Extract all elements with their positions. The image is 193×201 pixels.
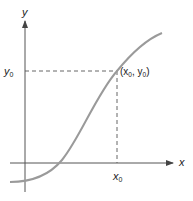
x0-tick-label: x0	[112, 170, 123, 183]
y-axis-label: y	[21, 6, 29, 18]
x-axis-label: x	[178, 156, 185, 168]
point-label: (x0, y0)	[120, 66, 150, 78]
y0-tick-label: y0	[3, 65, 14, 78]
graph-canvas: y x y0 x0 (x0, y0)	[0, 0, 193, 201]
function-curve	[10, 33, 162, 182]
